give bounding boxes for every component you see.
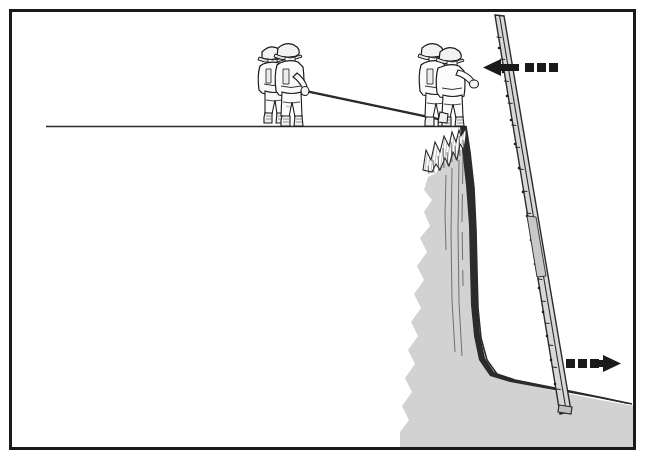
cliff-ladder-illustration [0, 0, 645, 459]
illustration-canvas: Firefighters lowering a ladder over a cl… [0, 0, 645, 459]
firefighter-pair-left [258, 44, 309, 126]
rope-anchor-boot [438, 112, 448, 123]
